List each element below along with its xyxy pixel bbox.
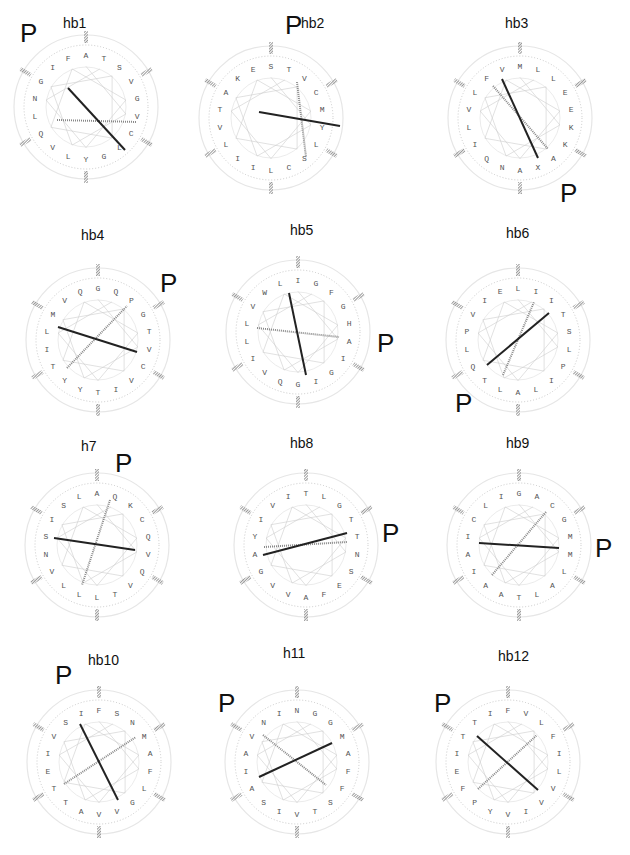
helical-wheel-panel-hb5: hb5 P IGFGHAIGIGQVILLVWL [210, 210, 420, 424]
residue-label: I [235, 154, 240, 163]
residue-label: I [50, 515, 55, 524]
residue-label: Q [278, 377, 283, 386]
residue-label: M [518, 62, 523, 71]
residue-label: V [466, 105, 471, 114]
residue-label: A [252, 550, 257, 559]
hydrophobic-moment-vector-primary [502, 79, 538, 158]
residue-label: M [51, 310, 56, 319]
residue-label: T [101, 54, 106, 63]
residue-label: L [516, 284, 521, 293]
residue-label: C [129, 129, 134, 138]
residue-label: G [135, 94, 140, 103]
residue-label: V [250, 732, 255, 741]
residue-label: V [50, 143, 55, 152]
residue-label: L [32, 112, 37, 121]
residue-label: A [84, 51, 89, 60]
residue-label: F [551, 732, 556, 741]
helical-wheel-panel-hb9: hb9 P GACGMMLALTAAIAICLI [420, 420, 630, 634]
dotted-ring [235, 700, 359, 824]
residue-label: E [337, 581, 342, 590]
helical-wheel-diagram: GACGMMLALTAAIAICLI [420, 420, 630, 634]
residue-label: L [66, 152, 71, 161]
hydrophobic-moment-vector-primary [259, 112, 340, 126]
residue-label: N [32, 94, 37, 103]
residue-label: A [518, 166, 523, 175]
residue-label: G [312, 709, 317, 718]
residue-label: T [304, 489, 309, 498]
residue-label: V [286, 590, 291, 599]
residue-label: A [550, 581, 555, 590]
residue-label: Y [252, 532, 257, 541]
residue-label: A [499, 590, 504, 599]
residue-label: Y [84, 155, 89, 164]
residue-label: G [562, 515, 567, 524]
residue-label: M [142, 732, 147, 741]
residue-label: A [347, 337, 352, 346]
helical-wheel-diagram: FSNMAFLGVVATTEIVSI [0, 640, 210, 854]
residue-label: Y [78, 385, 83, 394]
residue-label: L [551, 74, 556, 83]
helical-wheel-diagram: LIITSLPILALTQLPVIE [420, 210, 630, 424]
residue-label: S [63, 718, 68, 727]
residue-label: Q [140, 567, 145, 576]
residue-label: T [96, 388, 101, 397]
residue-label: I [259, 515, 264, 524]
residue-label: C [472, 515, 477, 524]
residue-label: I [79, 709, 84, 718]
helical-wheel-panel-hb1: hb1 P ATSVGVCLGYLVQLNGIF [0, 0, 210, 214]
residue-label: A [250, 784, 255, 793]
residue-label: I [499, 492, 504, 501]
residue-label: F [97, 706, 102, 715]
residue-label: V [217, 123, 222, 132]
residue-label: T [52, 784, 57, 793]
residue-label: I [482, 296, 487, 305]
residue-label: L [269, 166, 274, 175]
residue-label: T [482, 376, 487, 385]
helical-wheel-diagram: STVCMYLSCLIILVTAKE [210, 0, 420, 214]
residue-label: N [355, 550, 360, 559]
residue-label: V [523, 709, 528, 718]
residue-label: T [147, 327, 152, 336]
residue-label: L [567, 345, 572, 354]
residue-label: S [349, 567, 354, 576]
residue-label: I [472, 567, 477, 576]
residue-label: G [517, 489, 522, 498]
residue-label: F [329, 288, 334, 297]
helical-wheel-panel-hb8: hb8 P TLGTTNSEFAVVGAYIVI [210, 420, 420, 634]
residue-label: T [517, 593, 522, 602]
residue-label: T [217, 105, 222, 114]
residue-label: A [243, 749, 248, 758]
residue-label: T [286, 65, 291, 74]
residue-label: L [557, 767, 562, 776]
residue-label: G [296, 380, 301, 389]
residue-label: A [346, 749, 351, 758]
residue-label: G [96, 284, 101, 293]
helical-wheel-diagram: MLLEEKKAXANQILVLFV [420, 0, 630, 214]
residue-label: A [551, 154, 556, 163]
residue-label: L [244, 337, 249, 346]
residue-label: V [114, 807, 119, 816]
residue-label: I [243, 767, 248, 776]
residue-label: A [304, 593, 309, 602]
residue-label: N [295, 706, 300, 715]
residue-label: Y [488, 807, 493, 816]
residue-label: C [286, 163, 291, 172]
residue-label: V [128, 581, 133, 590]
residue-label: I [44, 345, 49, 354]
residue-label: G [259, 567, 264, 576]
residue-label: I [473, 140, 478, 149]
residue-label: G [341, 302, 346, 311]
residue-label: G [141, 310, 146, 319]
helical-wheel-diagram: NGGMAFFSTVISAIAVNI [210, 640, 420, 854]
residue-label: X [535, 163, 540, 172]
residue-label: G [337, 501, 342, 510]
residue-label: I [523, 807, 528, 816]
residue-label: N [130, 718, 135, 727]
residue-label: M [568, 550, 573, 559]
residue-label: E [498, 287, 503, 296]
residue-label: I [45, 749, 50, 758]
residue-label: I [251, 354, 256, 363]
residue-label: T [312, 807, 317, 816]
helical-wheel-panel-h7: h7 P AQKCQVQVTLLLVNSISL [0, 420, 210, 634]
residue-label: L [534, 590, 539, 599]
